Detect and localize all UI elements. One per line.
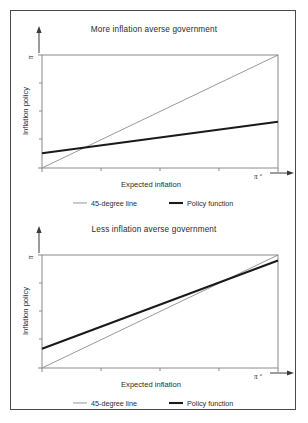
legend-label-45-degree-line: 45-degree line xyxy=(91,199,137,208)
y-axis-arrow-icon xyxy=(36,226,41,253)
series-45-degree-line xyxy=(42,255,278,368)
x-axis-label: Expected inflation xyxy=(121,180,181,189)
x-axis-symbol-superscript: e xyxy=(260,372,262,377)
x-axis-ticks xyxy=(42,368,278,372)
x-axis-arrow-icon xyxy=(270,170,294,175)
legend-label-policy-function: Policy function xyxy=(187,199,233,208)
legend-label-45-degree-line: 45-degree line xyxy=(91,399,137,408)
x-axis-symbol: π xyxy=(254,173,258,181)
figure-frame: More inflation averse government xyxy=(10,10,296,410)
y-axis-symbol: π xyxy=(27,55,35,59)
chart-panel-less-averse: Less inflation averse government xyxy=(11,211,297,411)
y-axis-label: Inflation policy xyxy=(21,287,30,335)
legend: 45-degree line Policy function xyxy=(73,199,233,208)
x-axis-ticks xyxy=(42,168,278,172)
chart-less-averse: π Inflation policy Expected inflation π … xyxy=(11,211,297,411)
x-axis-symbol: π xyxy=(254,373,258,381)
x-axis-label: Expected inflation xyxy=(121,380,181,389)
series-policy-function xyxy=(42,261,278,349)
y-axis-ticks xyxy=(38,255,42,368)
legend-label-policy-function: Policy function xyxy=(187,399,233,408)
legend: 45-degree line Policy function xyxy=(73,399,233,408)
y-axis-arrow-icon xyxy=(36,26,41,53)
chart-panel-more-averse: More inflation averse government xyxy=(11,11,297,211)
series-45-degree-line xyxy=(42,55,278,168)
chart-more-averse: π Inflation policy Expected inflation π … xyxy=(11,11,297,211)
y-axis-symbol: π xyxy=(27,255,35,259)
y-axis-label: Inflation policy xyxy=(21,87,30,135)
y-axis-ticks xyxy=(38,55,42,168)
x-axis-arrow-icon xyxy=(270,370,294,375)
series-policy-function xyxy=(42,122,278,154)
x-axis-symbol-superscript: e xyxy=(260,172,262,177)
